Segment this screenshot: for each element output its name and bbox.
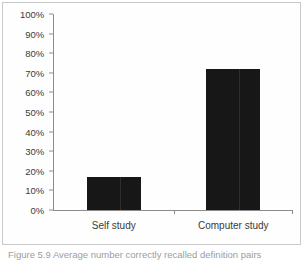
y-axis-tick-mark [49, 72, 53, 73]
y-axis-tick-mark [49, 53, 53, 54]
y-axis-tick-mark [49, 170, 53, 171]
bar [87, 177, 141, 210]
x-axis-tick-mark [292, 210, 293, 214]
y-axis-tick-mark [49, 190, 53, 191]
y-axis-tick-mark [49, 14, 53, 15]
bar-scan-artifact [239, 69, 240, 210]
y-axis-tick-label: 40% [0, 127, 44, 136]
x-axis-category-label: Self study [54, 220, 174, 232]
y-axis-tick-mark [49, 92, 53, 93]
bar [206, 69, 260, 210]
y-axis-tick-label: 20% [0, 166, 44, 175]
y-axis-tick-label: 10% [0, 186, 44, 195]
y-axis-tick-label: 50% [0, 108, 44, 117]
x-axis-category-label: Computer study [174, 220, 294, 232]
bar-chart: 0%10%20%30%40%50%60%70%80%90%100% Self s… [2, 2, 301, 245]
bar-scan-artifact [120, 177, 121, 210]
figure-container: 0%10%20%30%40%50%60%70%80%90%100% Self s… [0, 0, 305, 260]
figure-caption-strip: Figure 5.9 Average number correctly reca… [2, 249, 301, 260]
y-axis-tick-mark [49, 151, 53, 152]
y-axis-tick-mark [49, 210, 53, 211]
y-axis-tick-mark [49, 33, 53, 34]
y-axis-tick-mark [49, 112, 53, 113]
y-axis-tick-label: 60% [0, 88, 44, 97]
x-axis-category-labels: Self studyComputer study [54, 216, 293, 238]
y-axis-tick-label: 80% [0, 49, 44, 58]
figure-caption: Figure 5.9 Average number correctly reca… [8, 249, 300, 260]
y-axis-tick-label: 30% [0, 147, 44, 156]
plot-area [54, 14, 293, 210]
y-axis-tick-label: 70% [0, 68, 44, 77]
y-axis-tick-label: 100% [0, 10, 44, 19]
x-axis-tick-mark [174, 210, 175, 214]
y-axis-tick-label: 90% [0, 29, 44, 38]
y-axis-tick-mark [49, 131, 53, 132]
y-axis-labels: 0%10%20%30%40%50%60%70%80%90%100% [2, 14, 48, 210]
y-axis-tick-label: 0% [0, 206, 44, 215]
